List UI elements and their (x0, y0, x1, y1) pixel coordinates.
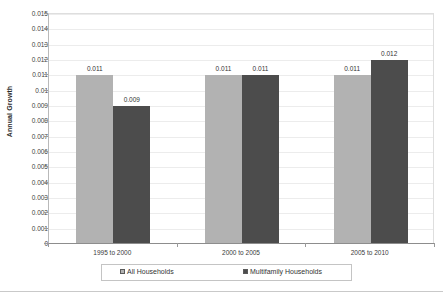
legend-swatch-light-icon (120, 269, 125, 274)
bar (242, 75, 279, 244)
y-axis-tick-label: 0.007 (4, 132, 48, 139)
bar-value-label: 0.012 (381, 50, 397, 57)
gridline (49, 14, 433, 15)
y-axis-tick-label: 0.001 (4, 224, 48, 231)
x-axis-line (48, 243, 435, 244)
x-axis-tick-mark (48, 243, 49, 247)
bar (113, 106, 150, 244)
bar (334, 75, 371, 244)
bar-value-label: 0.011 (216, 65, 232, 72)
y-axis-tick-label: 0.002 (4, 209, 48, 216)
bar-value-label: 0.009 (124, 96, 140, 103)
x-axis-tick-mark (177, 243, 178, 247)
gridline (49, 29, 433, 30)
plot-area: 0.0110.0090.0110.0110.0110.012 (48, 13, 434, 244)
legend-label-all-households: All Households (127, 268, 174, 275)
y-axis-tick-label: 0.014 (4, 25, 48, 32)
page-divider (0, 291, 443, 292)
bar (76, 75, 113, 244)
y-axis-tick-label: 0.01 (4, 86, 48, 93)
y-axis-tick-label: 0.006 (4, 148, 48, 155)
x-axis-tick-label: 2005 to 2010 (351, 249, 389, 256)
y-axis-tick-label: 0.003 (4, 194, 48, 201)
y-axis-tick-label: 0.015 (4, 10, 48, 17)
y-axis-tick-label: 0.011 (4, 71, 48, 78)
x-axis-tick-mark (305, 243, 306, 247)
legend: All Households Multifamily Households (101, 264, 352, 281)
legend-item-multifamily-households[interactable]: Multifamily Households (243, 268, 322, 275)
bar (205, 75, 242, 244)
y-axis-tick-label: 0.009 (4, 102, 48, 109)
legend-label-multifamily-households: Multifamily Households (250, 268, 322, 275)
y-axis-tick-label: 0 (4, 240, 48, 247)
y-axis-tick-label: 0.012 (4, 56, 48, 63)
legend-item-all-households[interactable]: All Households (120, 268, 174, 275)
bar-value-label: 0.011 (344, 65, 360, 72)
legend-swatch-dark-icon (243, 269, 248, 274)
x-axis-tick-label: 2000 to 2005 (222, 249, 260, 256)
y-axis-ticks: 00.0010.0020.0030.0040.0050.0060.0070.00… (0, 0, 48, 297)
x-axis-tick-label: 1995 to 2000 (93, 249, 131, 256)
y-axis-tick-label: 0.008 (4, 117, 48, 124)
bar-value-label: 0.011 (87, 65, 103, 72)
bar (371, 60, 408, 244)
y-axis-tick-label: 0.004 (4, 178, 48, 185)
y-axis-tick-label: 0.005 (4, 163, 48, 170)
bar-value-label: 0.011 (253, 65, 269, 72)
bar-chart: Annual Growth 00.0010.0020.0030.0040.005… (0, 0, 443, 297)
y-axis-tick-label: 0.013 (4, 40, 48, 47)
x-axis-tick-mark (434, 243, 435, 247)
gridline (49, 45, 433, 46)
